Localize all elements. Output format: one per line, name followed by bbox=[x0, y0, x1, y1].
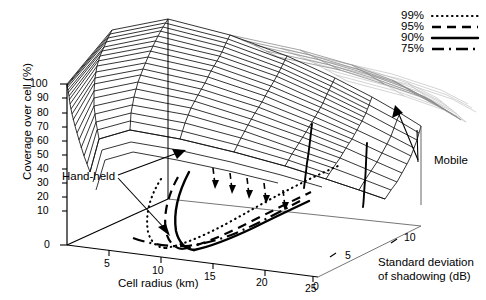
figure-3d-coverage-plot: Coverage over cell (%) 100 90 80 70 60 5… bbox=[0, 0, 486, 300]
legend-line-samples bbox=[432, 16, 478, 49]
x-axis-title: Cell radius (km) bbox=[118, 278, 199, 290]
y-tick-20: 20 bbox=[37, 191, 49, 202]
y-tick-0: 0 bbox=[44, 239, 50, 250]
x-tick-5: 5 bbox=[104, 258, 110, 269]
z-tick-5: 5 bbox=[345, 250, 351, 261]
y-axis-ticks bbox=[60, 84, 67, 245]
y-tick-80: 80 bbox=[37, 107, 49, 118]
mobile-arrowhead bbox=[392, 105, 403, 118]
y-tick-50: 50 bbox=[37, 149, 49, 160]
z-axis-title-line1: Standard deviation bbox=[378, 257, 474, 269]
z-axis-title-line2: of shadowing (dB) bbox=[378, 271, 471, 283]
contour-75 bbox=[133, 201, 300, 246]
z-tick-10: 10 bbox=[404, 232, 416, 243]
x-tick-20: 20 bbox=[256, 277, 268, 288]
y-tick-70: 70 bbox=[37, 121, 49, 132]
y-tick-90: 90 bbox=[37, 92, 49, 103]
contour-95 bbox=[165, 177, 311, 249]
contour-arrowheads bbox=[212, 180, 289, 211]
y-tick-10: 10 bbox=[37, 205, 49, 216]
y-tick-100: 100 bbox=[30, 78, 48, 89]
y-tick-40: 40 bbox=[37, 163, 49, 174]
mobile-annotation-label: Mobile bbox=[434, 155, 468, 167]
x-tick-10: 10 bbox=[152, 265, 164, 276]
handheld-arrowheads bbox=[158, 149, 186, 236]
surface-mesh-near bbox=[67, 19, 421, 199]
x-tick-15: 15 bbox=[204, 271, 216, 282]
z-tick-0: 0 bbox=[313, 281, 319, 292]
axis-box bbox=[67, 19, 421, 277]
surface-contour-segments bbox=[213, 168, 285, 207]
y-tick-30: 30 bbox=[37, 177, 49, 188]
handheld-annotation-label: Hand-held bbox=[62, 171, 115, 183]
legend-label-75: 75% bbox=[401, 43, 424, 55]
y-tick-60: 60 bbox=[37, 135, 49, 146]
